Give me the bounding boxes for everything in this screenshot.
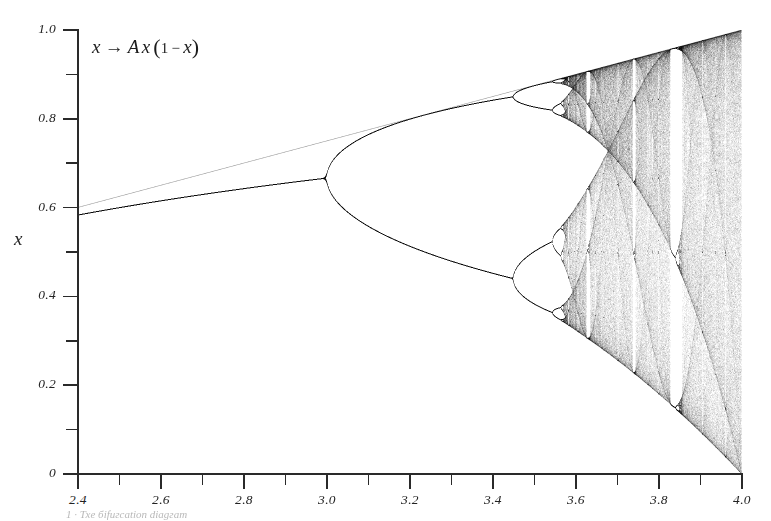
x-tick-minor bbox=[285, 474, 287, 485]
x-tick-major bbox=[409, 474, 411, 489]
x-tick-label: 2.8 bbox=[224, 492, 264, 508]
y-axis-title: x bbox=[14, 228, 22, 250]
y-tick-label: 0.2 bbox=[0, 376, 56, 392]
x-tick-major bbox=[658, 474, 660, 489]
y-tick-label: 1.0 bbox=[0, 21, 56, 37]
y-tick-label: 0.8 bbox=[0, 110, 56, 126]
x-tick-label: 3.2 bbox=[390, 492, 430, 508]
y-tick-major bbox=[63, 29, 78, 31]
x-tick-label: 3.0 bbox=[307, 492, 347, 508]
y-tick-minor bbox=[66, 251, 78, 253]
x-tick-minor bbox=[700, 474, 702, 485]
x-tick-label: 4.0 bbox=[722, 492, 762, 508]
x-tick-major bbox=[492, 474, 494, 489]
y-tick-label: 0.6 bbox=[0, 199, 56, 215]
x-tick-minor bbox=[368, 474, 370, 485]
y-tick-label: 0.4 bbox=[0, 287, 56, 303]
x-tick-major bbox=[575, 474, 577, 489]
plot-area bbox=[78, 30, 742, 474]
map-formula-annotation: x→Ax(1−x) bbox=[92, 34, 199, 60]
formula-arrow-icon: → bbox=[101, 36, 128, 57]
formula-param-a: A bbox=[128, 36, 140, 57]
x-tick-label: 2.4 bbox=[58, 492, 98, 508]
formula-close-paren: ) bbox=[192, 34, 200, 59]
y-tick-major bbox=[63, 473, 78, 475]
x-tick-minor bbox=[451, 474, 453, 485]
x-tick-minor bbox=[617, 474, 619, 485]
x-tick-minor bbox=[119, 474, 121, 485]
page-caption: 1 · Тхе біfuгcаtіon dіаgгаm bbox=[66, 508, 666, 521]
y-tick-minor bbox=[66, 74, 78, 76]
x-tick-minor bbox=[534, 474, 536, 485]
formula-var-x3: x bbox=[183, 36, 192, 57]
y-tick-minor bbox=[66, 340, 78, 342]
x-tick-major bbox=[741, 474, 743, 489]
y-tick-major bbox=[63, 296, 78, 298]
formula-one: 1 bbox=[161, 40, 169, 56]
x-tick-label: 3.8 bbox=[639, 492, 679, 508]
y-tick-label: 0 bbox=[0, 465, 56, 481]
y-tick-major bbox=[63, 207, 78, 209]
x-tick-major bbox=[77, 474, 79, 489]
bifurcation-diagram-canvas bbox=[78, 30, 742, 474]
x-tick-label: 2.6 bbox=[141, 492, 181, 508]
x-tick-minor bbox=[202, 474, 204, 485]
y-tick-minor bbox=[66, 429, 78, 431]
x-tick-major bbox=[326, 474, 328, 489]
y-tick-minor bbox=[66, 162, 78, 164]
y-tick-major bbox=[63, 118, 78, 120]
formula-minus: − bbox=[169, 40, 184, 56]
x-tick-major bbox=[160, 474, 162, 489]
bifurcation-figure: 00.20.40.60.81.0 2.42.62.83.03.23.43.63.… bbox=[0, 0, 771, 521]
x-tick-label: 3.4 bbox=[473, 492, 513, 508]
formula-var-x2: x bbox=[140, 36, 151, 57]
x-tick-label: 3.6 bbox=[556, 492, 596, 508]
formula-var-x: x bbox=[92, 36, 101, 57]
formula-open-paren: ( bbox=[150, 34, 161, 59]
x-tick-major bbox=[243, 474, 245, 489]
y-tick-major bbox=[63, 384, 78, 386]
